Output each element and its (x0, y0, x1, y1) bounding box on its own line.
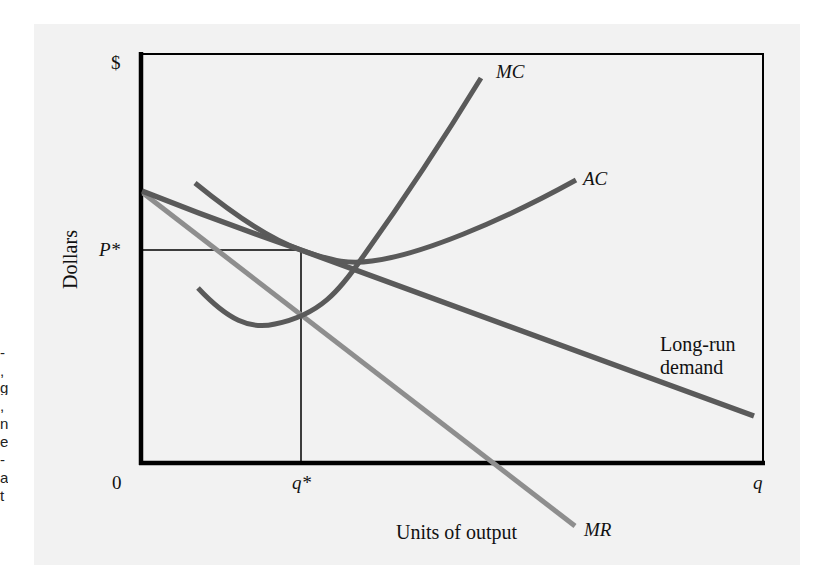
y-axis-dollar-label: $ (111, 53, 121, 73)
chart-canvas (0, 0, 823, 581)
ac-label: AC (583, 169, 607, 189)
x-axis-q-label: q (753, 473, 763, 493)
origin-label: 0 (112, 473, 122, 493)
demand-curve (142, 191, 754, 416)
demand-label-line1: Long-run (660, 334, 736, 354)
mr-label: MR (584, 520, 611, 540)
mc-label: MC (496, 62, 525, 82)
qstar-label: q* (292, 473, 311, 493)
mc-curve (198, 78, 481, 326)
demand-label-line2: demand (660, 357, 723, 377)
x-axis-title: Units of output (396, 522, 517, 542)
pstar-label: P* (99, 240, 120, 260)
y-axis-title: Dollars (59, 230, 82, 290)
mr-curve (143, 193, 575, 526)
